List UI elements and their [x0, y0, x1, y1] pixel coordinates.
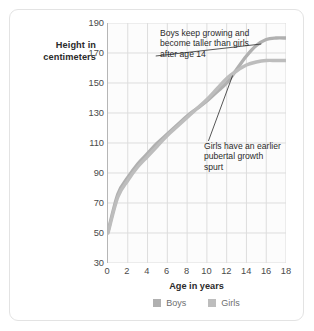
- y-tick-label: 70: [78, 198, 104, 208]
- chart-screenshot: Height in centimeters 305070901101301501…: [0, 0, 314, 331]
- x-axis-caption: Age in years: [107, 281, 286, 291]
- y-tick-label: 50: [78, 228, 104, 238]
- y-tick-label: 170: [78, 48, 104, 58]
- x-tick-label: 6: [158, 266, 176, 276]
- x-tick-label: 14: [237, 266, 255, 276]
- legend-swatch-boys: [153, 299, 161, 307]
- x-tick-label: 10: [197, 266, 215, 276]
- y-tick-label: 130: [78, 108, 104, 118]
- x-tick-label: 16: [257, 266, 275, 276]
- x-axis-tick-labels: 024681012141618: [107, 266, 287, 280]
- legend-label-girls: Girls: [221, 298, 240, 308]
- annotation-girls: Girls have an earlier pubertal growth sp…: [204, 141, 284, 172]
- x-tick-label: 2: [118, 266, 136, 276]
- series-lines: [108, 38, 286, 233]
- legend-label-boys: Boys: [166, 298, 186, 308]
- legend-swatch-girls: [208, 299, 216, 307]
- x-tick-label: 8: [178, 266, 196, 276]
- annotation-boys: Boys keep growing and become taller than…: [160, 28, 252, 59]
- y-axis-tick-labels: 30507090110130150170190: [74, 23, 104, 263]
- y-tick-label: 110: [78, 138, 104, 148]
- legend-item-girls: Girls: [208, 298, 240, 308]
- chart-legend: Boys Girls: [107, 296, 286, 310]
- x-tick-label: 12: [217, 266, 235, 276]
- y-tick-label: 90: [78, 168, 104, 178]
- legend-item-boys: Boys: [153, 298, 186, 308]
- x-tick-label: 4: [138, 266, 156, 276]
- y-tick-label: 190: [78, 18, 104, 28]
- x-tick-label: 0: [98, 266, 116, 276]
- y-tick-label: 150: [78, 78, 104, 88]
- series-line-boys: [108, 38, 286, 232]
- x-tick-label: 18: [277, 266, 295, 276]
